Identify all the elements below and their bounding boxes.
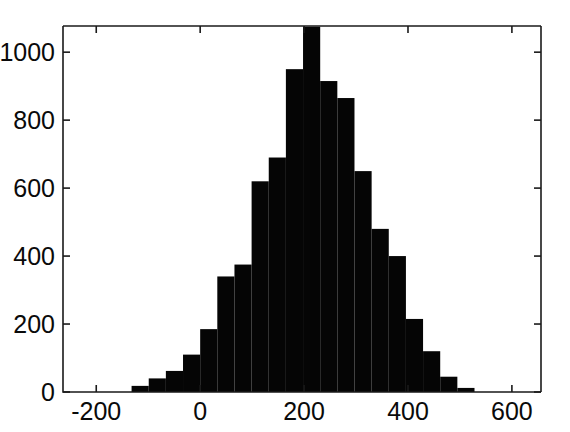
histogram-bar — [320, 81, 337, 392]
histogram-bar — [303, 27, 320, 392]
histogram-bar — [389, 256, 406, 392]
histogram-bar — [423, 351, 440, 392]
y-tick-label: 400 — [13, 242, 55, 270]
x-axis-tick-labels: -2000200400600 — [71, 397, 533, 425]
x-tick-label: 600 — [491, 397, 533, 425]
histogram-bar — [149, 378, 166, 392]
histogram-bar — [372, 229, 389, 392]
histogram-bar — [217, 276, 234, 392]
x-tick-label: 400 — [387, 397, 429, 425]
y-axis-tick-labels: 02004006008001000 — [0, 38, 55, 406]
x-tick-label: 200 — [283, 397, 325, 425]
histogram-bar — [252, 181, 269, 392]
x-tick-label: 0 — [193, 397, 207, 425]
histogram-bar — [234, 265, 251, 392]
histogram-bar — [337, 98, 354, 392]
histogram-bar — [183, 355, 200, 392]
y-tick-label: 200 — [13, 310, 55, 338]
histogram-plot: 02004006008001000 -2000200400600 — [0, 0, 570, 432]
y-tick-label: 1000 — [0, 38, 55, 66]
y-tick-label: 0 — [41, 378, 55, 406]
histogram-bar — [286, 69, 303, 392]
histogram-bar — [406, 319, 423, 392]
histogram-bar — [440, 377, 457, 392]
histogram-bar — [200, 329, 217, 392]
histogram-figure: 02004006008001000 -2000200400600 — [0, 0, 570, 432]
histogram-bar — [132, 386, 149, 392]
y-tick-label: 600 — [13, 174, 55, 202]
histogram-bar — [354, 171, 371, 392]
histogram-bar — [269, 158, 286, 392]
y-tick-label: 800 — [13, 106, 55, 134]
histogram-bar — [166, 371, 183, 392]
x-tick-label: -200 — [71, 397, 121, 425]
